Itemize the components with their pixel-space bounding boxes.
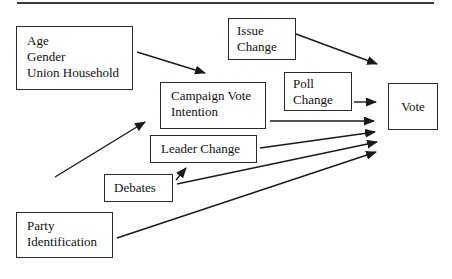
node-campaign-vote-intention-line-2: Intention — [171, 104, 265, 120]
node-leader-change-line-1: Leader Change — [161, 141, 256, 157]
node-leader-change: Leader Change — [150, 135, 257, 163]
node-issue-change-line-2: Change — [237, 39, 295, 55]
node-poll-change-line-1: Poll — [293, 76, 351, 92]
node-poll-change: Poll Change — [284, 72, 352, 111]
node-issue-change-line-1: Issue — [237, 23, 295, 39]
edge-debates-to-leader-change — [176, 168, 186, 180]
node-party-identification-line-1: Party — [27, 218, 112, 234]
top-rule — [17, 2, 434, 4]
node-debates: Debates — [104, 174, 173, 202]
edge-demographics-to-campaign-vote-intention — [137, 52, 205, 73]
node-party-identification-line-2: Identification — [27, 234, 112, 250]
node-campaign-vote-intention-line-1: Campaign Vote — [171, 88, 265, 104]
node-demographics: Age Gender Union Household — [16, 26, 133, 90]
edge-lower-left-to-campaign-vote-intention — [55, 122, 145, 177]
node-campaign-vote-intention: Campaign Vote Intention — [160, 82, 266, 129]
edge-issue-change-to-vote — [296, 34, 377, 64]
node-poll-change-line-2: Change — [293, 92, 351, 108]
edge-leader-change-to-vote — [260, 132, 375, 148]
node-demographics-line-3: Union Household — [27, 65, 132, 81]
node-debates-line-1: Debates — [114, 180, 172, 196]
node-issue-change: Issue Change — [228, 18, 296, 60]
node-party-identification: Party Identification — [16, 212, 113, 258]
node-demographics-line-2: Gender — [27, 49, 132, 65]
node-vote-line-1: Vote — [401, 99, 425, 115]
path-model-diagram: Age Gender Union Household Issue Change … — [0, 0, 452, 279]
node-vote: Vote — [388, 83, 438, 130]
node-demographics-line-1: Age — [27, 33, 132, 49]
